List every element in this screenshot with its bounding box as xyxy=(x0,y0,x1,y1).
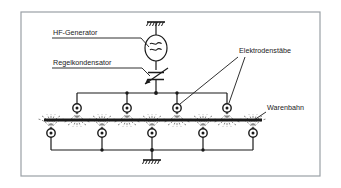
electrode-rod-bottom-3 xyxy=(148,129,156,137)
electrode-rod-bottom-2 xyxy=(98,129,106,137)
label-elektrodenstaebe: Elektrodenstäbe xyxy=(239,46,291,55)
label-hf-generator: HF-Generator xyxy=(53,28,98,37)
junction-dot xyxy=(201,148,204,151)
electrode-rod-bottom-4 xyxy=(199,129,207,137)
electrode-rod-top-2 xyxy=(123,104,131,112)
electrode-rod-top-3 xyxy=(173,104,181,112)
electrode-rod-bottom-1 xyxy=(47,129,55,137)
junction-dot xyxy=(100,148,103,151)
label-regelkondensator: Regelkondensator xyxy=(53,58,112,67)
electrode-rod-top-1 xyxy=(73,104,81,112)
hf-dryer-diagram: HF-Generator Regelkondensator Elektroden… xyxy=(0,0,341,188)
electrode-rod-top-4 xyxy=(223,104,231,112)
junction-dot xyxy=(125,91,128,94)
label-warenbahn: Warenbahn xyxy=(267,103,304,112)
junction-dot xyxy=(154,91,158,95)
canvas-background xyxy=(0,0,341,188)
figure-root: HF-Generator Regelkondensator Elektroden… xyxy=(0,0,341,188)
junction-dot xyxy=(175,91,178,94)
electrode-rod-bottom-5 xyxy=(249,129,257,137)
generator-circle xyxy=(145,35,167,61)
